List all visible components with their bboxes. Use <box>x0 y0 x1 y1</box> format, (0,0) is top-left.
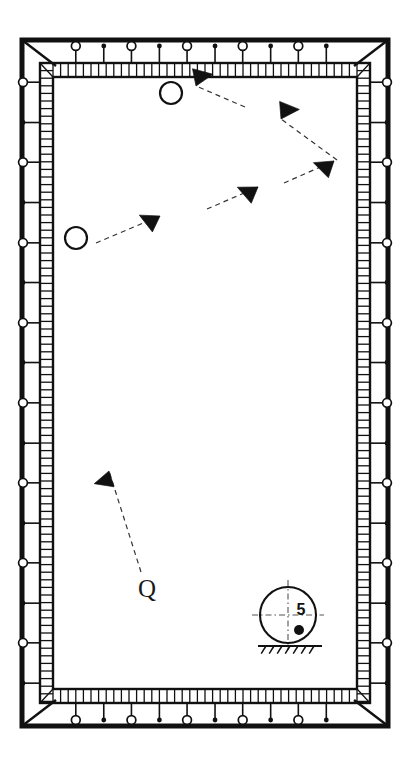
edge-filled-dot-top <box>324 44 329 49</box>
edge-open-circle-right <box>383 158 392 167</box>
edge-open-circle-bottom <box>127 716 136 725</box>
edge-open-circle-left <box>19 238 28 247</box>
edge-filled-dot-left <box>21 280 26 285</box>
edge-open-circle-left <box>19 398 28 407</box>
edge-filled-dot-right <box>385 521 390 526</box>
edge-filled-dot-bottom <box>324 718 329 723</box>
edge-open-circle-left <box>19 158 28 167</box>
edge-open-circle-bottom <box>71 716 80 725</box>
edge-open-circle-top <box>71 42 80 51</box>
edge-filled-dot-right <box>385 120 390 125</box>
edge-filled-dot-top <box>101 44 106 49</box>
edge-filled-dot-bottom <box>213 718 218 723</box>
edge-open-circle-right <box>383 78 392 87</box>
edge-open-circle-left <box>19 318 28 327</box>
edge-open-circle-right <box>383 318 392 327</box>
edge-filled-dot-top <box>213 44 218 49</box>
edge-filled-dot-left <box>21 360 26 365</box>
edge-filled-dot-right <box>385 681 390 686</box>
edge-open-circle-right <box>383 398 392 407</box>
symbol-q-symbol: Q <box>138 575 156 602</box>
edge-filled-dot-left <box>21 521 26 526</box>
edge-filled-dot-bottom <box>268 718 273 723</box>
edge-filled-dot-right <box>385 441 390 446</box>
edge-open-circle-top <box>238 42 247 51</box>
edge-filled-dot-right <box>385 360 390 365</box>
edge-filled-dot-left <box>21 200 26 205</box>
edge-filled-dot-left <box>21 120 26 125</box>
engineering-diagram: Q 5 <box>0 0 410 766</box>
background <box>0 0 410 766</box>
edge-open-circle-left <box>19 558 28 567</box>
edge-open-circle-top <box>127 42 136 51</box>
edge-open-circle-bottom <box>183 716 192 725</box>
edge-open-circle-right <box>383 478 392 487</box>
callout-label: 5 <box>297 601 306 618</box>
edge-filled-dot-right <box>385 200 390 205</box>
edge-filled-dot-left <box>21 601 26 606</box>
edge-filled-dot-right <box>385 601 390 606</box>
edge-filled-dot-right <box>385 280 390 285</box>
edge-open-circle-right <box>383 638 392 647</box>
edge-open-circle-left <box>19 478 28 487</box>
callout-center-dot <box>294 625 304 635</box>
edge-open-circle-right <box>383 558 392 567</box>
edge-open-circle-top <box>183 42 192 51</box>
interior-circle-circle-left <box>65 227 87 249</box>
edge-open-circle-top <box>294 42 303 51</box>
edge-open-circle-left <box>19 78 28 87</box>
edge-open-circle-bottom <box>238 716 247 725</box>
edge-filled-dot-top <box>157 44 162 49</box>
edge-filled-dot-left <box>21 441 26 446</box>
interior-circle-circle-top <box>160 82 182 104</box>
edge-filled-dot-bottom <box>157 718 162 723</box>
diagram-canvas: Q 5 <box>0 0 410 766</box>
edge-open-circle-bottom <box>294 716 303 725</box>
edge-open-circle-right <box>383 238 392 247</box>
edge-filled-dot-bottom <box>101 718 106 723</box>
edge-filled-dot-top <box>268 44 273 49</box>
edge-filled-dot-left <box>21 681 26 686</box>
edge-open-circle-left <box>19 638 28 647</box>
